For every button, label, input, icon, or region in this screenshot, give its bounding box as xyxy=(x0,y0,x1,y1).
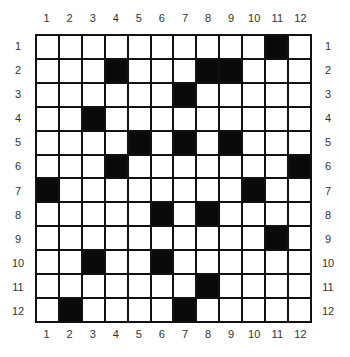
white-cell-r2-c1[interactable] xyxy=(37,60,58,82)
white-cell-r11-c3[interactable] xyxy=(83,275,104,297)
white-cell-r5-c3[interactable] xyxy=(83,132,104,154)
white-cell-r10-c5[interactable] xyxy=(129,251,150,273)
white-cell-r9-c10[interactable] xyxy=(243,227,264,249)
white-cell-r5-c2[interactable] xyxy=(60,132,81,154)
white-cell-r8-c4[interactable] xyxy=(106,203,127,225)
white-cell-r7-c4[interactable] xyxy=(106,179,127,201)
white-cell-r4-c2[interactable] xyxy=(60,108,81,130)
white-cell-r9-c12[interactable] xyxy=(289,227,310,249)
white-cell-r11-c1[interactable] xyxy=(37,275,58,297)
white-cell-r1-c9[interactable] xyxy=(220,36,241,58)
white-cell-r2-c6[interactable] xyxy=(152,60,173,82)
white-cell-r1-c10[interactable] xyxy=(243,36,264,58)
white-cell-r10-c1[interactable] xyxy=(37,251,58,273)
white-cell-r6-c6[interactable] xyxy=(152,156,173,178)
white-cell-r6-c5[interactable] xyxy=(129,156,150,178)
white-cell-r11-c11[interactable] xyxy=(266,275,287,297)
white-cell-r1-c1[interactable] xyxy=(37,36,58,58)
white-cell-r3-c11[interactable] xyxy=(266,84,287,106)
white-cell-r4-c9[interactable] xyxy=(220,108,241,130)
white-cell-r5-c8[interactable] xyxy=(197,132,218,154)
white-cell-r9-c2[interactable] xyxy=(60,227,81,249)
white-cell-r8-c7[interactable] xyxy=(174,203,195,225)
white-cell-r9-c1[interactable] xyxy=(37,227,58,249)
white-cell-r1-c2[interactable] xyxy=(60,36,81,58)
white-cell-r1-c4[interactable] xyxy=(106,36,127,58)
white-cell-r4-c6[interactable] xyxy=(152,108,173,130)
white-cell-r11-c5[interactable] xyxy=(129,275,150,297)
white-cell-r4-c7[interactable] xyxy=(174,108,195,130)
white-cell-r3-c1[interactable] xyxy=(37,84,58,106)
white-cell-r11-c2[interactable] xyxy=(60,275,81,297)
white-cell-r12-c1[interactable] xyxy=(37,299,58,321)
white-cell-r2-c2[interactable] xyxy=(60,60,81,82)
white-cell-r5-c6[interactable] xyxy=(152,132,173,154)
white-cell-r5-c4[interactable] xyxy=(106,132,127,154)
white-cell-r4-c8[interactable] xyxy=(197,108,218,130)
white-cell-r3-c3[interactable] xyxy=(83,84,104,106)
white-cell-r6-c3[interactable] xyxy=(83,156,104,178)
white-cell-r3-c12[interactable] xyxy=(289,84,310,106)
white-cell-r1-c5[interactable] xyxy=(129,36,150,58)
white-cell-r12-c10[interactable] xyxy=(243,299,264,321)
white-cell-r11-c9[interactable] xyxy=(220,275,241,297)
white-cell-r7-c8[interactable] xyxy=(197,179,218,201)
white-cell-r6-c8[interactable] xyxy=(197,156,218,178)
white-cell-r10-c8[interactable] xyxy=(197,251,218,273)
white-cell-r7-c5[interactable] xyxy=(129,179,150,201)
white-cell-r2-c5[interactable] xyxy=(129,60,150,82)
white-cell-r10-c12[interactable] xyxy=(289,251,310,273)
white-cell-r6-c2[interactable] xyxy=(60,156,81,178)
white-cell-r9-c5[interactable] xyxy=(129,227,150,249)
white-cell-r8-c12[interactable] xyxy=(289,203,310,225)
white-cell-r10-c11[interactable] xyxy=(266,251,287,273)
white-cell-r1-c6[interactable] xyxy=(152,36,173,58)
white-cell-r10-c9[interactable] xyxy=(220,251,241,273)
white-cell-r9-c3[interactable] xyxy=(83,227,104,249)
white-cell-r8-c1[interactable] xyxy=(37,203,58,225)
white-cell-r6-c1[interactable] xyxy=(37,156,58,178)
white-cell-r4-c11[interactable] xyxy=(266,108,287,130)
white-cell-r10-c10[interactable] xyxy=(243,251,264,273)
white-cell-r8-c2[interactable] xyxy=(60,203,81,225)
white-cell-r4-c1[interactable] xyxy=(37,108,58,130)
white-cell-r8-c10[interactable] xyxy=(243,203,264,225)
white-cell-r2-c11[interactable] xyxy=(266,60,287,82)
white-cell-r9-c8[interactable] xyxy=(197,227,218,249)
white-cell-r12-c4[interactable] xyxy=(106,299,127,321)
white-cell-r9-c7[interactable] xyxy=(174,227,195,249)
white-cell-r5-c11[interactable] xyxy=(266,132,287,154)
white-cell-r7-c11[interactable] xyxy=(266,179,287,201)
white-cell-r3-c9[interactable] xyxy=(220,84,241,106)
white-cell-r3-c5[interactable] xyxy=(129,84,150,106)
white-cell-r2-c3[interactable] xyxy=(83,60,104,82)
white-cell-r10-c4[interactable] xyxy=(106,251,127,273)
white-cell-r5-c12[interactable] xyxy=(289,132,310,154)
white-cell-r4-c5[interactable] xyxy=(129,108,150,130)
white-cell-r4-c12[interactable] xyxy=(289,108,310,130)
white-cell-r11-c12[interactable] xyxy=(289,275,310,297)
white-cell-r12-c3[interactable] xyxy=(83,299,104,321)
white-cell-r7-c7[interactable] xyxy=(174,179,195,201)
white-cell-r3-c4[interactable] xyxy=(106,84,127,106)
white-cell-r7-c12[interactable] xyxy=(289,179,310,201)
white-cell-r5-c10[interactable] xyxy=(243,132,264,154)
white-cell-r4-c10[interactable] xyxy=(243,108,264,130)
white-cell-r3-c8[interactable] xyxy=(197,84,218,106)
white-cell-r12-c11[interactable] xyxy=(266,299,287,321)
white-cell-r6-c7[interactable] xyxy=(174,156,195,178)
white-cell-r12-c12[interactable] xyxy=(289,299,310,321)
white-cell-r7-c2[interactable] xyxy=(60,179,81,201)
white-cell-r11-c6[interactable] xyxy=(152,275,173,297)
white-cell-r8-c5[interactable] xyxy=(129,203,150,225)
white-cell-r12-c6[interactable] xyxy=(152,299,173,321)
white-cell-r9-c4[interactable] xyxy=(106,227,127,249)
white-cell-r7-c6[interactable] xyxy=(152,179,173,201)
white-cell-r4-c4[interactable] xyxy=(106,108,127,130)
white-cell-r6-c9[interactable] xyxy=(220,156,241,178)
white-cell-r6-c10[interactable] xyxy=(243,156,264,178)
white-cell-r10-c2[interactable] xyxy=(60,251,81,273)
white-cell-r9-c9[interactable] xyxy=(220,227,241,249)
white-cell-r6-c11[interactable] xyxy=(266,156,287,178)
white-cell-r8-c3[interactable] xyxy=(83,203,104,225)
